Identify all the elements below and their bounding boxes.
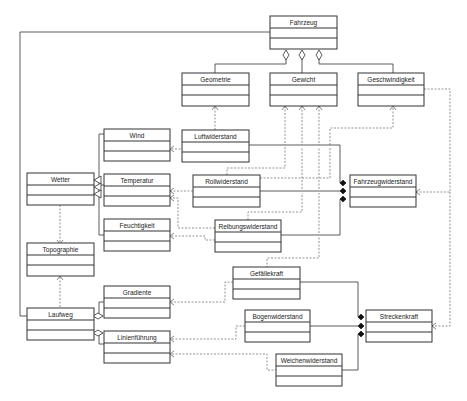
class-name: Fahrzeug: [290, 19, 318, 27]
class-name: Geschwindigkeit: [367, 76, 415, 84]
class-name: Gefällekraft: [250, 270, 283, 277]
class-fahrzeug[interactable]: Fahrzeug: [270, 16, 337, 49]
class-rollwiderstand[interactable]: Rollwiderstand: [193, 175, 260, 207]
class-geometrie[interactable]: Geometrie: [182, 73, 249, 106]
diamond-fahrzeug-geschwindigkeit: [316, 50, 322, 60]
class-name: Streckenkraft: [380, 313, 418, 320]
class-name: Fahrzeugwiderstand: [354, 178, 413, 186]
class-temperatur[interactable]: Temperatur: [104, 174, 170, 206]
class-name: Gradiente: [123, 289, 152, 296]
class-name: Gewicht: [292, 76, 316, 83]
class-name: Wind: [130, 132, 145, 139]
class-topographie[interactable]: Topographie: [27, 243, 94, 276]
class-feuchtigkeit[interactable]: Feuchtigkeit: [104, 219, 170, 251]
class-name: Temperatur: [121, 177, 155, 185]
edge-luftwiderstand-fahrzeugwiderstand: [249, 145, 346, 183]
class-wetter[interactable]: Wetter: [27, 173, 94, 205]
class-name: Weichenwiderstand: [281, 357, 338, 364]
class-gewicht[interactable]: Gewicht: [270, 73, 337, 106]
edge-fahrzeug-geometrie: [215, 60, 286, 73]
class-gefaellekraft[interactable]: Gefällekraft: [233, 267, 300, 299]
class-laufweg[interactable]: Laufweg: [27, 308, 94, 340]
class-name: Rollwiderstand: [205, 178, 248, 185]
edge-weichenwiderstand-streckenkraft: [342, 334, 364, 370]
class-weichenwiderstand[interactable]: Weichenwiderstand: [276, 354, 342, 386]
class-luftwiderstand[interactable]: Luftwiderstand: [182, 130, 249, 162]
class-name: Bogenwiderstand: [252, 313, 303, 321]
class-name: Geometrie: [200, 76, 231, 83]
class-name: Luftwiderstand: [194, 133, 237, 140]
class-name: Laufweg: [48, 311, 73, 319]
class-bogenwiderstand[interactable]: Bogenwiderstand: [245, 310, 310, 342]
diamond-fahrzeug-gewicht: [299, 50, 305, 60]
class-fahrzeugwiderstand[interactable]: Fahrzeugwiderstand: [350, 175, 416, 207]
class-linienfuehrung[interactable]: Linienführung: [104, 331, 170, 363]
edge-reibungswiderstand-fahrzeugwiderstand: [281, 199, 346, 235]
class-name: Feuchtigkeit: [119, 222, 154, 230]
uml-diagram: Fahrzeug Geometrie Gewicht Geschwindigke…: [0, 0, 467, 401]
class-name: Wetter: [51, 176, 71, 183]
class-name: Topographie: [43, 246, 79, 254]
class-name: Reibungswiderstand: [219, 223, 278, 231]
class-geschwindigkeit[interactable]: Geschwindigkeit: [358, 73, 424, 106]
class-reibungswiderstand[interactable]: Reibungswiderstand: [215, 220, 281, 252]
edge-fahrzeug-geschwindigkeit: [319, 60, 393, 73]
class-wind[interactable]: Wind: [104, 129, 170, 161]
class-name: Linienführung: [117, 334, 157, 342]
generalization-triangles: [94, 176, 101, 198]
class-streckenkraft[interactable]: Streckenkraft: [366, 310, 432, 342]
class-gradiente[interactable]: Gradiente: [104, 286, 170, 318]
diamond-fahrzeug-geometrie: [283, 50, 289, 60]
